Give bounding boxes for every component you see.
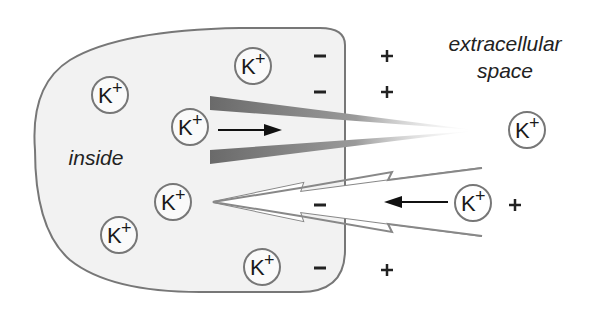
potassium-ion-icon: K+: [509, 112, 545, 148]
svg-text:K: K: [241, 54, 256, 79]
svg-text:K: K: [107, 223, 122, 248]
svg-text:K: K: [161, 190, 176, 215]
svg-text:K: K: [178, 115, 193, 140]
svg-text:+: +: [192, 110, 203, 130]
svg-text:+: +: [255, 49, 266, 69]
potassium-ion-icon: K+: [172, 109, 208, 145]
svg-text:K: K: [461, 191, 476, 216]
plus-charge-icon: [381, 50, 393, 62]
plus-charge-icon: [381, 86, 393, 98]
potassium-ion-icon: K+: [155, 184, 191, 220]
potassium-ion-icon: K+: [455, 185, 491, 221]
svg-text:+: +: [264, 250, 275, 270]
svg-text:+: +: [112, 78, 123, 98]
svg-text:+: +: [175, 185, 186, 205]
svg-text:+: +: [529, 113, 540, 133]
svg-text:K: K: [98, 83, 113, 108]
svg-text:K: K: [515, 118, 530, 143]
svg-text:+: +: [121, 218, 132, 238]
inside-label: inside: [60, 144, 132, 171]
extracellular-label-line1: extracellular: [430, 30, 580, 57]
potassium-ion-icon: K+: [92, 77, 128, 113]
plus-charge-icon: [509, 199, 521, 211]
potassium-ion-icon: K+: [244, 249, 280, 285]
svg-text:+: +: [475, 186, 486, 206]
svg-text:K: K: [250, 255, 265, 280]
potassium-ion-icon: K+: [101, 217, 137, 253]
extracellular-space-label: extracellular space: [430, 30, 580, 85]
potassium-ion-icon: K+: [235, 48, 271, 84]
extracellular-label-line2: space: [430, 57, 580, 84]
plus-charge-icon: [381, 264, 393, 276]
